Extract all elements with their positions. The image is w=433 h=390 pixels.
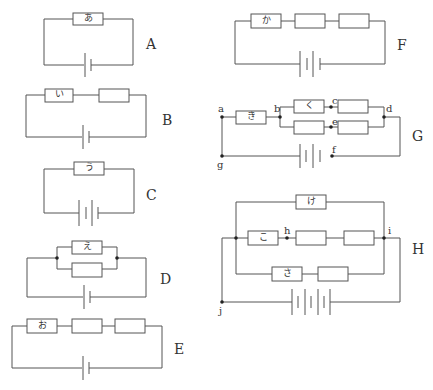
resistor-label-ka: か xyxy=(251,16,281,25)
circuit-label-c: C xyxy=(146,188,157,202)
node-label-h: h xyxy=(284,226,290,236)
circuit-label-a: A xyxy=(146,37,156,51)
circuit-diagram-figure: あ い う え お か き く け こ さ A B C D E F G H a … xyxy=(0,0,433,390)
circuit-label-d: D xyxy=(160,272,171,286)
circuit-label-b: B xyxy=(162,113,172,127)
resistor-label-ke: け xyxy=(296,197,326,206)
circuit-h xyxy=(220,195,400,315)
circuit-label-h: H xyxy=(412,242,424,256)
resistor-d2 xyxy=(72,263,102,277)
resistor-g-b-e xyxy=(294,121,324,134)
circuit-label-e: E xyxy=(174,342,184,356)
resistor-b2 xyxy=(99,89,129,102)
resistor-e3 xyxy=(115,319,145,333)
node-label-g: g xyxy=(217,160,223,170)
node-label-d: d xyxy=(386,104,392,114)
node-label-e: e xyxy=(332,117,338,127)
resistor-g-c-d xyxy=(338,100,368,113)
node-label-j: j xyxy=(219,306,222,316)
resistor-label-o: お xyxy=(27,321,57,330)
circuit-d xyxy=(27,241,146,309)
resistor-g-e-d xyxy=(338,121,368,134)
resistor-h-mid1 xyxy=(296,231,326,245)
resistor-h-bot2 xyxy=(318,267,348,281)
resistor-label-i: い xyxy=(44,90,74,99)
node-label-b: b xyxy=(274,104,280,114)
resistor-label-ku: く xyxy=(294,101,324,110)
node-label-c: c xyxy=(332,96,338,106)
resistor-e2 xyxy=(72,319,102,333)
resistor-label-e: え xyxy=(72,242,102,251)
node-label-i: i xyxy=(388,226,391,236)
node-label-a: a xyxy=(218,104,224,114)
resistor-f2 xyxy=(295,14,325,28)
resistor-f3 xyxy=(339,14,369,28)
resistor-label-u: う xyxy=(74,163,104,172)
resistor-label-a: あ xyxy=(73,14,103,23)
resistor-h-mid2 xyxy=(344,231,374,245)
node-label-f: f xyxy=(332,145,336,155)
resistor-label-ko: こ xyxy=(248,233,278,242)
circuit-label-g: G xyxy=(412,129,423,143)
circuit-label-f: F xyxy=(397,38,407,52)
resistor-label-sa: さ xyxy=(272,269,302,278)
resistor-label-ki: き xyxy=(236,112,266,121)
